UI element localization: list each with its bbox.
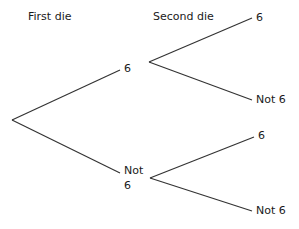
branch-not6-to-not6 — [150, 178, 252, 211]
header-first-die: First die — [28, 10, 71, 23]
branch-root-to-not6 — [12, 120, 120, 173]
label-first-not6-line2: 6 — [124, 179, 131, 192]
branch-6-to-not6 — [149, 62, 252, 100]
branch-6-to-6 — [149, 18, 252, 62]
label-second-not6-top: Not 6 — [256, 93, 286, 106]
label-first-not6-line1: Not — [124, 164, 143, 177]
label-first-6: 6 — [124, 62, 131, 75]
tree-diagram — [0, 0, 299, 229]
label-second-not6-bottom: Not 6 — [256, 204, 286, 217]
branch-root-to-6 — [12, 70, 120, 120]
label-second-6-top: 6 — [256, 11, 263, 24]
header-second-die: Second die — [153, 10, 214, 23]
branch-not6-to-6 — [150, 137, 254, 178]
label-second-6-bottom: 6 — [258, 129, 265, 142]
